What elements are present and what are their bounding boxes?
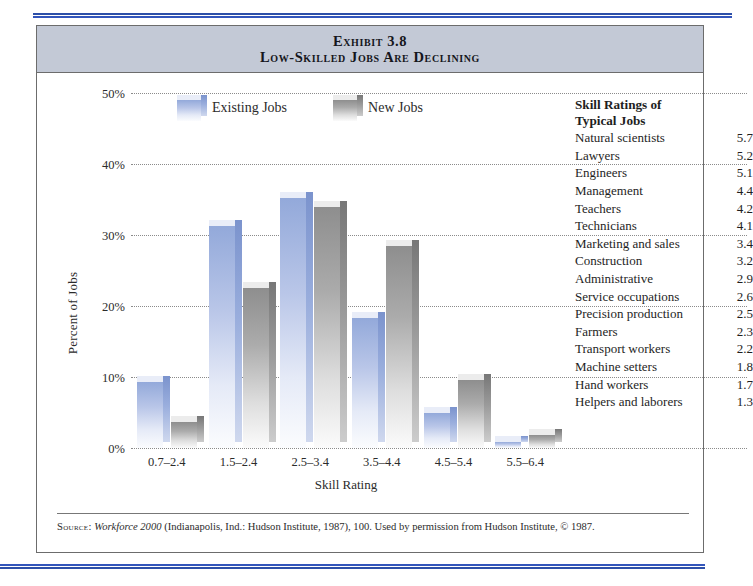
skill-ratings-rows: Natural scientists5.7Lawyers5.2Engineers…	[575, 129, 753, 411]
skill-rating-job: Teachers	[575, 200, 621, 218]
bar-existing-jobs[interactable]	[495, 442, 521, 448]
source-note-wrap: Source: Workforce 2000 (Indianapolis, In…	[57, 513, 689, 533]
skill-ratings-heading-line2: Typical Jobs	[575, 113, 753, 129]
bar-new-jobs[interactable]	[314, 207, 340, 448]
y-axis-tick-label: 20%	[102, 300, 125, 315]
exhibit-frame: Exhibit 3.8 Low-Skilled Jobs Are Declini…	[36, 25, 704, 553]
source-divider	[57, 513, 689, 514]
source-note: Source: Workforce 2000 (Indianapolis, In…	[57, 520, 689, 533]
x-axis-tick-label: 5.5–6.4	[489, 455, 561, 470]
skill-rating-value: 1.7	[729, 376, 753, 394]
skill-rating-value: 1.3	[729, 393, 753, 411]
skill-rating-row: Machine setters1.8	[575, 358, 753, 376]
source-title: Workforce 2000	[94, 521, 161, 532]
skill-rating-row: Administrative2.9	[575, 270, 753, 288]
skill-rating-row: Service occupations2.6	[575, 288, 753, 306]
skill-rating-row: Teachers4.2	[575, 200, 753, 218]
skill-rating-value: 3.4	[729, 235, 753, 253]
bar-group	[418, 93, 490, 448]
legend-swatch-new-icon	[333, 95, 357, 121]
skill-rating-job: Natural scientists	[575, 129, 665, 147]
exhibit-title-band: Exhibit 3.8 Low-Skilled Jobs Are Declini…	[37, 26, 703, 73]
exhibit-title: Low-Skilled Jobs Are Declining	[260, 50, 480, 66]
skill-rating-value: 2.2	[729, 340, 753, 358]
skill-rating-value: 2.3	[729, 323, 753, 341]
bar-group	[203, 93, 275, 448]
gridline: 0%	[131, 448, 747, 449]
bar-group	[489, 93, 561, 448]
skill-rating-row: Precision production2.5	[575, 305, 753, 323]
y-axis-tick-label: 40%	[102, 158, 125, 173]
skill-rating-value: 4.2	[729, 200, 753, 218]
source-rest: (Indianapolis, Ind.: Hudson Institute, 1…	[164, 521, 595, 532]
skill-rating-value: 1.8	[729, 358, 753, 376]
skill-rating-job: Helpers and laborers	[575, 393, 683, 411]
bar-group	[274, 93, 346, 448]
skill-rating-value: 5.2	[729, 147, 753, 165]
legend-label-existing: Existing Jobs	[212, 100, 287, 116]
skill-rating-job: Engineers	[575, 164, 627, 182]
skill-rating-row: Farmers2.3	[575, 323, 753, 341]
skill-rating-value: 2.9	[729, 270, 753, 288]
bar-new-jobs[interactable]	[171, 422, 197, 448]
skill-rating-job: Administrative	[575, 270, 653, 288]
skill-rating-job: Construction	[575, 252, 642, 270]
bar-existing-jobs[interactable]	[209, 226, 235, 448]
legend-swatch-existing-icon	[177, 95, 201, 121]
skill-rating-value: 4.4	[729, 182, 753, 200]
legend-item-existing-jobs: Existing Jobs	[177, 95, 287, 121]
x-axis-title: Skill Rating	[131, 477, 561, 493]
bar-existing-jobs[interactable]	[424, 413, 450, 448]
chart-legend: Existing Jobs New Jobs	[177, 95, 423, 121]
x-axis-tick-label: 0.7–2.4	[131, 455, 203, 470]
y-axis-tick-label: 10%	[102, 371, 125, 386]
y-axis-title: Percent of Jobs	[65, 253, 81, 373]
bar-group	[346, 93, 418, 448]
skill-rating-value: 5.7	[729, 129, 753, 147]
bar-new-jobs[interactable]	[529, 435, 555, 448]
skill-rating-row: Transport workers2.2	[575, 340, 753, 358]
bar-new-jobs[interactable]	[243, 288, 269, 448]
skill-rating-value: 4.1	[729, 217, 753, 235]
bar-new-jobs[interactable]	[458, 380, 484, 448]
chart-body: Percent of Jobs 0%10%20%30%40%50% Existi…	[37, 73, 703, 553]
x-axis-tick-label: 1.5–2.4	[203, 455, 275, 470]
skill-rating-job: Management	[575, 182, 643, 200]
skill-rating-value: 3.2	[729, 252, 753, 270]
y-axis-tick-label: 0%	[108, 442, 125, 457]
skill-rating-job: Hand workers	[575, 376, 648, 394]
bar-group	[131, 93, 203, 448]
bar-new-jobs[interactable]	[386, 246, 412, 448]
x-axis-tick-label: 3.5–4.4	[346, 455, 418, 470]
skill-rating-row: Helpers and laborers1.3	[575, 393, 753, 411]
bar-existing-jobs[interactable]	[352, 318, 378, 448]
legend-item-new-jobs: New Jobs	[333, 95, 423, 121]
source-prefix: Source:	[57, 521, 92, 532]
skill-rating-job: Farmers	[575, 323, 618, 341]
skill-ratings-heading: Skill Ratings of Typical Jobs	[575, 97, 753, 128]
y-axis-tick-label: 50%	[102, 87, 125, 102]
skill-rating-value: 2.6	[729, 288, 753, 306]
bar-existing-jobs[interactable]	[137, 382, 163, 448]
plot-area: 0%10%20%30%40%50%	[131, 93, 561, 448]
bar-existing-jobs[interactable]	[280, 198, 306, 448]
skill-rating-job: Lawyers	[575, 147, 620, 165]
page-rule-top	[33, 13, 732, 19]
skill-rating-job: Precision production	[575, 305, 683, 323]
skill-rating-job: Transport workers	[575, 340, 670, 358]
legend-label-new: New Jobs	[368, 100, 423, 116]
skill-rating-value: 2.5	[729, 305, 753, 323]
page-rule-bottom	[0, 564, 705, 570]
skill-rating-row: Marketing and sales3.4	[575, 235, 753, 253]
x-axis-tick-label: 4.5–5.4	[418, 455, 490, 470]
skill-ratings-heading-line1: Skill Ratings of	[575, 97, 753, 113]
x-axis-tick-label: 2.5–3.4	[274, 455, 346, 470]
x-axis-labels: 0.7–2.41.5–2.42.5–3.43.5–4.44.5–5.45.5–6…	[131, 455, 561, 470]
skill-ratings-table: Skill Ratings of Typical Jobs Natural sc…	[575, 97, 753, 411]
exhibit-number: Exhibit 3.8	[333, 34, 407, 50]
skill-rating-row: Technicians4.1	[575, 217, 753, 235]
skill-rating-row: Hand workers1.7	[575, 376, 753, 394]
skill-rating-job: Machine setters	[575, 358, 657, 376]
skill-rating-row: Engineers5.1	[575, 164, 753, 182]
skill-rating-job: Marketing and sales	[575, 235, 680, 253]
